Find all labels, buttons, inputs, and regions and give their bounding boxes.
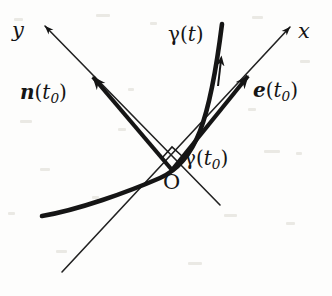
normal-vector-label: n(t0) [20, 82, 67, 105]
paren-open: ( [180, 22, 188, 46]
e-symbol: e [253, 78, 266, 102]
t-symbol: t [204, 146, 212, 170]
x-axis-line [62, 27, 290, 272]
x-axis-label: x [298, 21, 310, 42]
origin-label: O [163, 172, 180, 193]
paren-close: ) [196, 22, 204, 46]
tangent-vector-label: e(t0) [253, 80, 298, 103]
gamma-symbol: γ [184, 146, 196, 170]
y-axis-label: y [12, 20, 24, 41]
t-symbol: t [188, 22, 196, 46]
n-symbol: n [20, 80, 35, 104]
diagram-canvas [0, 0, 332, 296]
paren-close: ) [290, 78, 298, 102]
paren-close: ) [220, 146, 228, 170]
gamma-symbol: γ [168, 22, 180, 46]
t-symbol: t [274, 78, 282, 102]
figure-root: y x γ(t) n(t0) e(t0) γ(t0) O [0, 0, 332, 296]
gamma-at-t0-label: γ(t0) [184, 148, 228, 171]
t-subscript: 0 [50, 90, 59, 106]
paren-close: ) [59, 80, 67, 104]
paren-open: ( [266, 78, 274, 102]
gamma-curve-label: γ(t) [168, 24, 204, 44]
paren-open: ( [196, 146, 204, 170]
y-axis-line [45, 26, 220, 205]
normal-vector-arrow [93, 77, 172, 170]
t-subscript: 0 [282, 88, 291, 104]
